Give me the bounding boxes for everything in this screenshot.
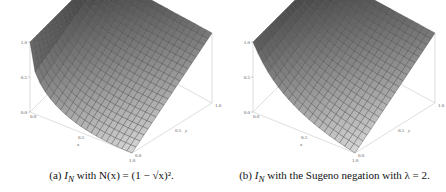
z-tick-label: 0.5 bbox=[21, 75, 28, 80]
x-axis-label: x bbox=[299, 142, 303, 147]
caption-label: (a) bbox=[49, 169, 61, 181]
z-tick-label: 0.0 bbox=[244, 110, 251, 115]
x-axis-label: x bbox=[76, 142, 80, 147]
x-tick-label: 0.5 bbox=[78, 135, 85, 140]
y-tick-label: 1.0 bbox=[438, 103, 445, 108]
z-tick-label: 1.0 bbox=[244, 40, 251, 45]
z-tick-label: 1.0 bbox=[21, 40, 28, 45]
y-tick-label: 0.5 bbox=[398, 128, 405, 133]
x-tick-label: 1.0 bbox=[352, 158, 359, 163]
y-tick-label: 0.0 bbox=[358, 153, 365, 158]
x-tick-label: 0.0 bbox=[253, 114, 260, 119]
plot-area: 0.00.51.00.00.51.00.00.51.0xy bbox=[244, 0, 445, 163]
caption-text: with the Sugeno negation with λ = 2. bbox=[265, 169, 430, 181]
y-tick-label: 0.0 bbox=[135, 153, 142, 158]
z-tick-label: 0.5 bbox=[244, 75, 251, 80]
y-tick-label: 0.5 bbox=[175, 128, 182, 133]
plot-area: 0.00.51.00.00.51.00.00.51.0xy bbox=[21, 0, 222, 163]
caption-text: with N(x) = (1 − √x)². bbox=[74, 169, 174, 181]
caption-a: (a) IN with N(x) = (1 − √x)². bbox=[0, 169, 223, 184]
caption-label: (b) bbox=[239, 169, 252, 181]
y-axis-label: y bbox=[184, 128, 188, 133]
surface-plot-a: 0.00.51.00.00.51.00.00.51.0xy bbox=[0, 0, 223, 165]
surface-plot-b: 0.00.51.00.00.51.00.00.51.0xy bbox=[223, 0, 446, 165]
x-tick-label: 0.0 bbox=[30, 114, 37, 119]
caption-b: (b) IN with the Sugeno negation with λ =… bbox=[223, 169, 446, 184]
y-tick-label: 1.0 bbox=[215, 103, 222, 108]
figure-panel-a: 0.00.51.00.00.51.00.00.51.0xy (a) IN wit… bbox=[0, 0, 223, 192]
x-tick-label: 1.0 bbox=[129, 158, 136, 163]
y-axis-label: y bbox=[407, 128, 411, 133]
figure-panel-b: 0.00.51.00.00.51.00.00.51.0xy (b) IN wit… bbox=[223, 0, 446, 192]
z-tick-label: 0.0 bbox=[21, 110, 28, 115]
x-tick-label: 0.5 bbox=[301, 135, 308, 140]
